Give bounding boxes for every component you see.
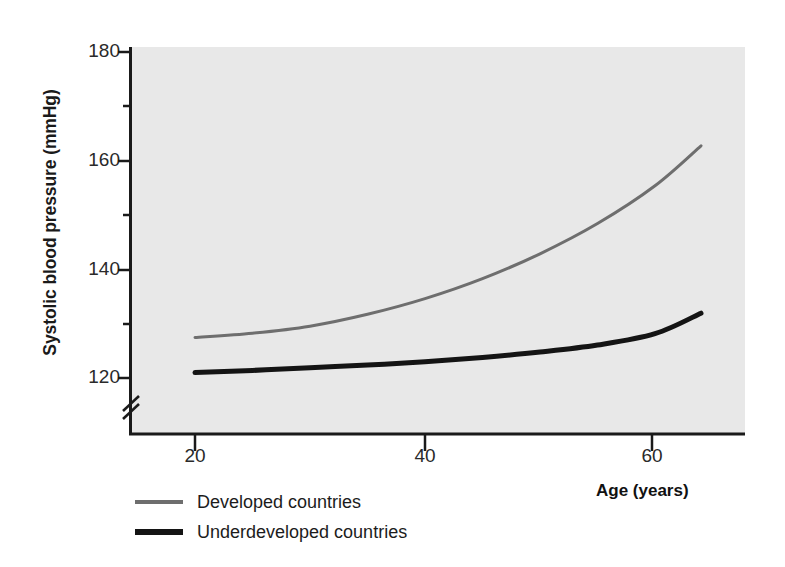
legend-label-developed: Developed countries <box>197 492 361 513</box>
chart-figure: Systolic blood pressure (mmHg) 180 160 1… <box>0 0 785 567</box>
legend-item-underdeveloped-countries: Underdeveloped countries <box>135 517 407 547</box>
legend-line-icon-underdeveloped <box>135 529 183 535</box>
legend-label-underdeveloped: Underdeveloped countries <box>197 522 407 543</box>
plot-background <box>130 47 745 435</box>
x-axis-title: Age (years) <box>596 481 689 501</box>
legend-item-developed-countries: Developed countries <box>135 487 407 517</box>
legend-line-icon-developed <box>135 500 183 504</box>
chart-legend: Developed countries Underdeveloped count… <box>135 487 407 547</box>
